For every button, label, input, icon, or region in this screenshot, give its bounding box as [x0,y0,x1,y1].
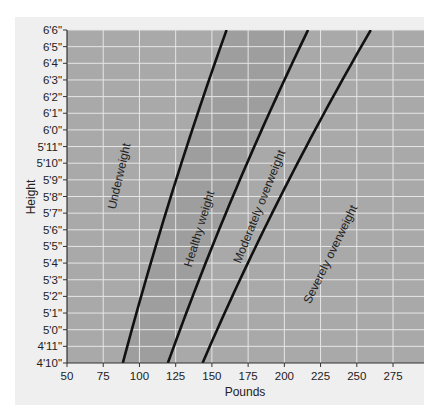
y-tick-label: 6'1" [43,107,62,119]
y-tick-label: 6'4" [43,57,62,69]
x-tick-label: 175 [239,370,258,382]
y-tick-label: 5'8" [43,191,62,203]
y-tick-label: 5'4" [43,257,62,269]
x-tick-label: 75 [97,370,110,382]
y-tick-label: 5'3" [43,274,62,286]
y-tick-label: 5'7" [43,207,62,219]
x-tick-label: 150 [202,370,221,382]
y-tick-label: 5'2" [43,290,62,302]
bmi-chart: 50751001251501752002252502754'10"4'11"5'… [0,0,437,416]
x-tick-label: 100 [130,370,149,382]
y-tick-label: 5'9" [43,174,62,186]
y-tick-label: 6'2" [43,91,62,103]
y-tick-label: 6'0" [43,124,62,136]
y-tick-label: 5'5" [43,240,62,252]
y-axis-title: Height [24,179,38,214]
x-axis-title: Pounds [225,385,266,399]
y-tick-label: 5'6" [43,224,62,236]
y-tick-label: 4'10" [37,357,62,369]
y-tick-label: 5'11" [37,141,62,153]
x-tick-label: 225 [311,370,330,382]
x-tick-label: 200 [275,370,294,382]
y-tick-label: 5'10" [37,157,62,169]
y-tick-label: 6'6" [43,24,62,36]
y-tick-label: 6'3" [43,74,62,86]
y-tick-label: 5'1" [43,307,62,319]
x-tick-label: 50 [61,370,74,382]
y-tick-label: 6'5" [43,41,62,53]
x-tick-label: 125 [166,370,185,382]
x-tick-label: 275 [383,370,402,382]
y-tick-label: 4'11" [37,340,62,352]
y-tick-label: 5'0" [43,324,62,336]
x-tick-label: 250 [347,370,366,382]
